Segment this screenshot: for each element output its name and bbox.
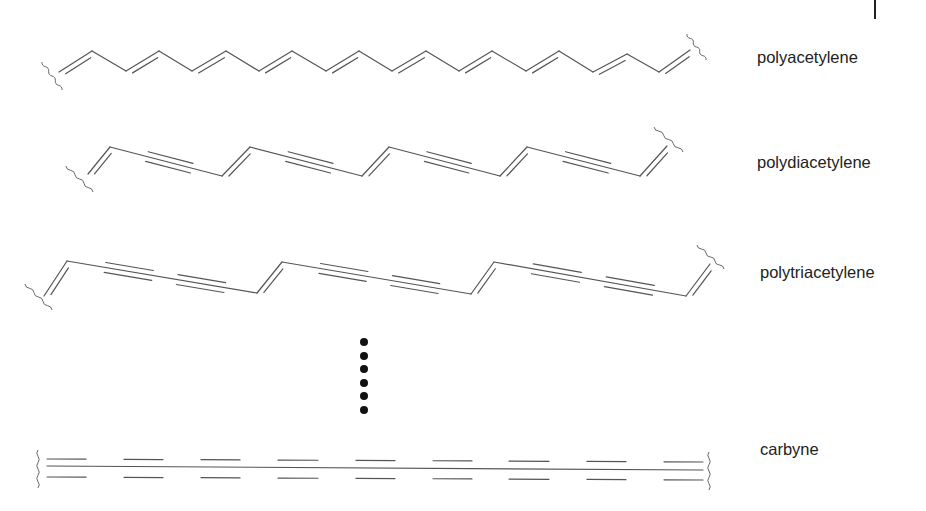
backbone-bond — [222, 147, 250, 176]
backbone-bond — [426, 51, 459, 71]
wavy-bond-start — [25, 284, 52, 310]
label-carbyne: carbyne — [760, 440, 819, 459]
ellipsis-dot — [360, 406, 368, 414]
polydiacetylene-structure — [66, 127, 683, 192]
backbone-bond — [259, 51, 292, 71]
backbone-bond — [392, 51, 426, 71]
backbone-bond — [44, 261, 67, 296]
backbone-bond — [159, 51, 192, 71]
wavy-bond-start — [42, 62, 62, 90]
triple-bond-line — [532, 274, 580, 283]
backbone-bond — [67, 261, 257, 293]
backbone-bond — [494, 262, 686, 296]
backbone-bond — [326, 51, 359, 71]
triple-bond-line — [286, 161, 331, 173]
backbone-bond — [526, 51, 559, 71]
wavy-bond-end — [654, 127, 683, 152]
wavy-bond-start — [66, 166, 93, 192]
polyacetylene-structure — [42, 34, 706, 90]
triple-bond-line — [288, 152, 333, 164]
backbone-bond — [389, 147, 500, 176]
backbone-bond — [126, 51, 159, 71]
wavy-bond-start — [37, 450, 40, 488]
backbone-bond — [559, 51, 593, 72]
triple-bond-line — [424, 161, 468, 173]
carbyne-structure — [37, 450, 711, 490]
triple-bond-line — [606, 277, 654, 286]
triple-bond-line — [427, 152, 471, 164]
triple-bond-line — [148, 152, 193, 164]
polymer-structures-diagram — [0, 0, 926, 511]
ellipsis-dot — [360, 379, 368, 387]
wavy-bond-end — [697, 245, 724, 269]
backbone-bond — [282, 262, 471, 294]
backbone-bond — [359, 51, 392, 71]
backbone-bond — [192, 51, 226, 71]
triple-bond-line — [566, 152, 611, 164]
label-polyacetylene: polyacetylene — [757, 48, 858, 67]
backbone-bond — [686, 264, 710, 296]
backbone-bond — [627, 54, 659, 72]
label-polydiacetylene: polydiacetylene — [757, 153, 871, 172]
backbone-bond — [659, 50, 690, 72]
backbone-bond — [527, 147, 640, 176]
carbyne-main-chain — [47, 466, 703, 470]
ellipsis-dot — [360, 365, 368, 373]
wavy-bond-end — [687, 34, 706, 60]
backbone-bond — [257, 262, 282, 293]
backbone-bond — [292, 51, 326, 71]
backbone-bond — [640, 146, 667, 176]
ellipsis-dot — [360, 392, 368, 400]
backbone-bond — [250, 147, 362, 176]
label-polytriacetylene: polytriacetylene — [760, 263, 875, 282]
backbone-bond — [226, 51, 259, 71]
ellipsis-dot — [360, 352, 368, 360]
page-edge-marker — [874, 0, 876, 19]
backbone-bond — [59, 51, 92, 72]
backbone-bond — [492, 51, 526, 71]
triple-bond-line — [533, 264, 581, 273]
polytriacetylene-structure — [25, 245, 724, 310]
continuation-dots — [360, 338, 368, 414]
backbone-bond — [459, 51, 492, 71]
backbone-bond — [362, 147, 389, 176]
backbone-bond — [92, 51, 126, 71]
triple-bond-line — [563, 161, 608, 173]
backbone-bond — [471, 262, 494, 294]
backbone-bond — [88, 147, 110, 174]
backbone-bond — [110, 147, 222, 176]
backbone-bond — [500, 147, 527, 176]
triple-bond-line — [146, 161, 191, 173]
ellipsis-dot — [360, 338, 368, 346]
triple-bond-line — [604, 287, 652, 296]
wavy-bond-end — [708, 452, 711, 490]
double-bond-line — [599, 61, 625, 75]
